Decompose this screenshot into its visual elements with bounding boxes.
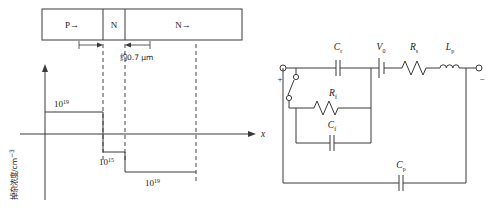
label-ind-p: Lp: [445, 42, 454, 54]
terminal-negative-node[interactable]: [476, 65, 482, 71]
figure-root: P→ N N→ 约0.7 μm: [0, 0, 492, 210]
label-cap-f: Cf: [328, 120, 336, 132]
y-axis-label-main: 掉杂浓度/cm: [9, 158, 19, 200]
label-res-f: Rf: [328, 88, 337, 100]
branch-res-f: [296, 101, 371, 115]
svg-text:掉杂浓度/cm−3: 掉杂浓度/cm−3: [8, 149, 19, 200]
region-label-n-wide: N→: [175, 20, 191, 30]
doping-step-profile: [45, 112, 196, 172]
equivalent-circuit-diagram: Cr V0 Rs Lp + −: [277, 42, 484, 191]
branch-cap-p: [283, 68, 466, 191]
region-label-n-thin: N: [111, 20, 118, 30]
y-axis-label: 掉杂浓度/cm−3: [8, 149, 19, 200]
label-res-s: Rs: [409, 42, 419, 54]
region-label-p: P→: [65, 20, 79, 30]
label-cap-r: Cr: [334, 42, 342, 54]
profile-label-p-plus: 1019: [54, 99, 69, 110]
figure-canvas: P→ N N→ 约0.7 μm: [0, 0, 492, 210]
dimension-arrows: [79, 41, 150, 49]
label-cap-p: Cp: [396, 160, 405, 172]
x-axis-label: x: [260, 129, 266, 139]
label-source-v0: V0: [377, 42, 386, 54]
y-axis: [42, 64, 48, 200]
profile-label-n-low: 1015: [99, 157, 114, 168]
profile-label-n-plus: 1019: [145, 178, 160, 189]
alignment-guides: [103, 44, 196, 183]
terminal-negative-sign: −: [479, 74, 484, 84]
switch-open[interactable]: [286, 68, 298, 108]
y-axis-label-exponent: −3: [8, 149, 15, 158]
terminal-positive-sign: +: [277, 74, 282, 84]
top-rail: [280, 58, 482, 78]
x-axis: [20, 131, 256, 137]
doping-profile-diagram: P→ N N→ 约0.7 μm: [8, 9, 266, 200]
